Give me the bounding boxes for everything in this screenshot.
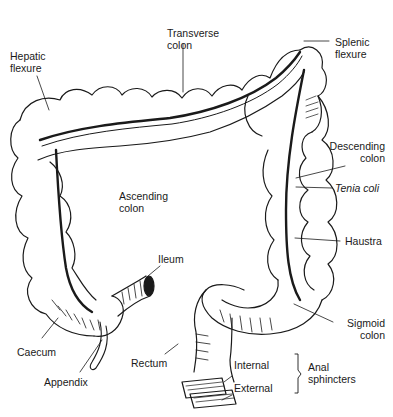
label-hepatic-flexure: Hepatic flexure (10, 50, 46, 74)
label-haustra: Haustra (345, 235, 382, 247)
label-internal-sphincter: Internal (234, 359, 269, 371)
label-ascending-colon: Ascending colon (119, 190, 168, 214)
label-splenic-flexure: Splenic flexure (335, 36, 369, 60)
label-sigmoid-colon: Sigmoid colon (330, 317, 385, 341)
label-caecum: Caecum (17, 346, 56, 358)
label-rectum: Rectum (131, 357, 167, 369)
colon-diagram: Transverse colon Hepatic flexure Splenic… (0, 0, 393, 417)
label-appendix: Appendix (44, 376, 88, 388)
label-ileum: Ileum (158, 253, 184, 265)
label-anal-sphincters: Anal sphincters (308, 361, 356, 385)
label-external-sphincter: External (234, 382, 273, 394)
label-descending-colon: Descending colon (328, 140, 385, 164)
colon-illustration (0, 0, 393, 417)
label-tenia-coli: Tenia coli (335, 182, 379, 194)
label-transverse-colon: Transverse colon (167, 27, 219, 51)
